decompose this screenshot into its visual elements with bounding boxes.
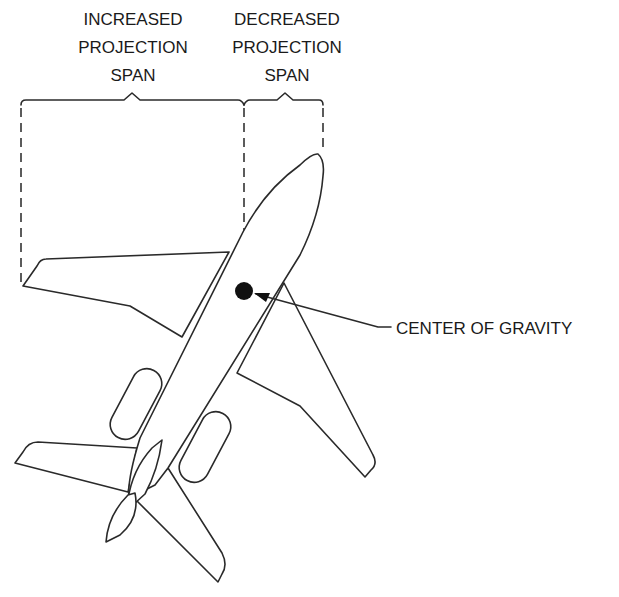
decreased-span-label: DECREASED PROJECTION SPAN — [232, 10, 342, 85]
decreased-label-line-1: DECREASED — [234, 10, 340, 29]
increased-label-line-1: INCREASED — [83, 10, 182, 29]
airplane-projection-span-diagram: INCREASED PROJECTION SPAN DECREASED PROJ… — [0, 0, 619, 597]
decreased-label-line-3: SPAN — [264, 66, 309, 85]
decreased-span-brace — [244, 93, 323, 105]
left-horizontal-stabilizer — [15, 442, 137, 492]
increased-span-label: INCREASED PROJECTION SPAN — [78, 10, 188, 85]
decreased-label-line-2: PROJECTION — [232, 38, 342, 57]
center-of-gravity-label: CENTER OF GRAVITY — [396, 319, 572, 338]
increased-label-line-2: PROJECTION — [78, 38, 188, 57]
increased-span-brace — [21, 93, 244, 105]
tail-cone — [106, 493, 136, 542]
center-of-gravity-dot — [235, 282, 253, 300]
increased-label-line-3: SPAN — [110, 66, 155, 85]
